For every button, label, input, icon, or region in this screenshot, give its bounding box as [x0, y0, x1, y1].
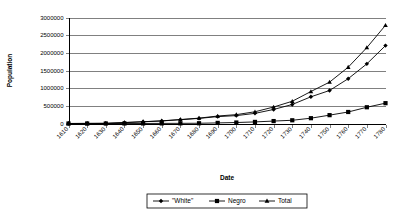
x-tick-label: 1770	[354, 126, 368, 140]
data-point-marker	[309, 95, 313, 99]
chart-legend: "White"NegroTotal	[147, 194, 307, 208]
x-tick-label: 1760	[335, 126, 349, 140]
tickmarks-group	[66, 19, 387, 128]
x-tick-label: 1710	[242, 126, 256, 140]
y-axis-tick-labels: 0500000100000015000002000000250000030000…	[40, 15, 64, 127]
data-point-marker	[365, 105, 369, 109]
y-tick-label: 1000000	[40, 85, 64, 91]
x-tick-label: 1740	[298, 126, 312, 140]
data-point-marker	[234, 120, 238, 124]
legend-label: "White"	[172, 197, 194, 204]
series-line-2	[69, 25, 386, 123]
x-tick-label: 1630	[93, 126, 107, 140]
y-tick-label: 3000000	[40, 15, 64, 21]
data-point-marker	[197, 121, 201, 125]
population-chart: 0500000100000015000002000000250000030000…	[0, 0, 397, 224]
x-tick-label: 1620	[74, 126, 88, 140]
data-point-marker	[290, 99, 295, 103]
y-tick-label: 0	[60, 121, 64, 127]
y-tick-label: 1500000	[40, 68, 64, 74]
data-point-marker	[383, 101, 387, 105]
x-tick-label: 1610	[56, 126, 70, 140]
data-point-marker	[327, 113, 331, 117]
y-axis-title: Population	[6, 54, 14, 88]
x-tick-label: 1700	[223, 126, 237, 140]
series-line-0	[69, 46, 386, 124]
chart-canvas: 0500000100000015000002000000250000030000…	[0, 0, 397, 224]
x-tick-label: 1720	[261, 126, 275, 140]
data-point-marker	[178, 121, 182, 125]
data-point-marker	[290, 118, 294, 122]
gridlines-group	[69, 19, 386, 107]
legend-label: Total	[278, 197, 292, 204]
data-point-marker	[309, 116, 313, 120]
x-tick-label: 1670	[167, 126, 181, 140]
x-tick-label: 1650	[130, 126, 144, 140]
x-tick-label: 1640	[111, 126, 125, 140]
x-tick-label: 1680	[186, 126, 200, 140]
x-tick-label: 1730	[279, 126, 293, 140]
data-point-marker	[216, 121, 220, 125]
data-point-marker	[346, 110, 350, 114]
x-tick-label: 1690	[205, 126, 219, 140]
y-tick-label: 2500000	[40, 32, 64, 38]
y-tick-label: 2000000	[40, 50, 64, 56]
y-tick-label: 500000	[43, 103, 64, 109]
series-group	[69, 25, 386, 123]
x-tick-label: 1780	[373, 126, 387, 140]
data-point-marker	[383, 23, 388, 27]
x-axis-title: Date	[220, 174, 234, 181]
data-point-marker	[272, 119, 276, 123]
legend-label: Negro	[228, 197, 246, 205]
x-tick-label: 1750	[317, 126, 331, 140]
data-point-marker	[215, 199, 219, 203]
x-axis-tick-labels: 1610162016301640165016601670168016901700…	[56, 126, 387, 140]
data-point-marker	[253, 120, 257, 124]
x-tick-label: 1660	[149, 126, 163, 140]
